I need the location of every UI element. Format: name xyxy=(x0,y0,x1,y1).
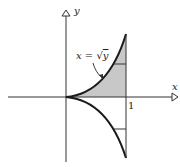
curve-label-arg: y xyxy=(103,50,109,61)
solid-of-revolution-diagram xyxy=(0,0,180,167)
y-axis-arrow-icon xyxy=(62,10,70,16)
lower-curve xyxy=(66,97,126,158)
x-axis-label: x xyxy=(172,82,178,92)
y-axis-label: y xyxy=(74,6,80,16)
curve-label-lhs: x = xyxy=(76,50,96,61)
x-axis-arrow-icon xyxy=(172,93,178,101)
curve-label: x = √y xyxy=(76,51,108,61)
shaded-region xyxy=(66,34,126,97)
x-tick-1: 1 xyxy=(128,101,134,111)
